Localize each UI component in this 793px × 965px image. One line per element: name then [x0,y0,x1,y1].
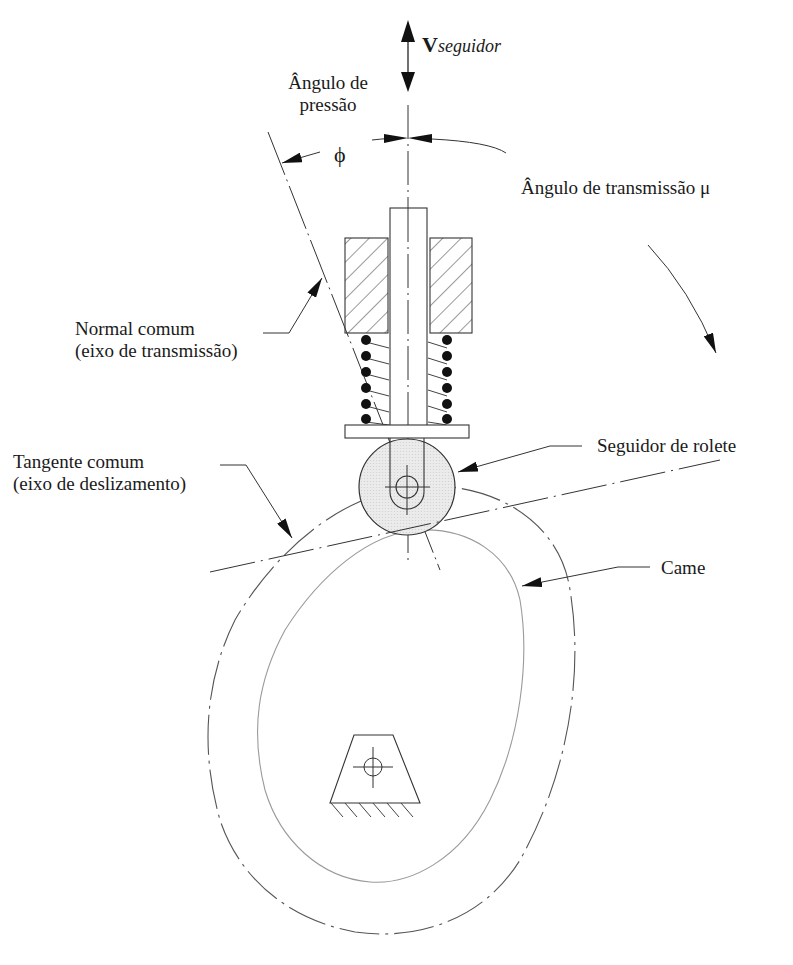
velocity-arrow [401,20,415,92]
spring-plate [345,425,469,438]
cam-leader [522,567,650,586]
pressure-angle-dimension [282,134,506,163]
transmission-angle-label: Ângulo de transmissão μ [521,177,710,199]
tangent-leader [220,465,292,538]
transmission-angle-arc [648,245,716,353]
normal-leader [263,278,322,333]
pressure-angle-label: Ângulo de pressão [268,72,388,116]
common-tangent-label: Tangente comum (eixo de deslizamento) [13,451,186,495]
pitch-curve [208,486,575,934]
roller-follower-label: Seguidor de rolete [597,435,736,457]
common-normal-label: Normal comum (eixo de transmissão) [75,318,238,362]
cam-pivot-support [330,735,420,817]
common-tangent-line [210,460,720,572]
cam-profile [258,530,524,882]
phi-symbol: ϕ [334,144,346,166]
roller-follower [359,438,455,535]
cam-label: Came [661,557,705,579]
roller-leader [458,446,582,472]
velocity-label: Vseguidor [422,34,501,57]
